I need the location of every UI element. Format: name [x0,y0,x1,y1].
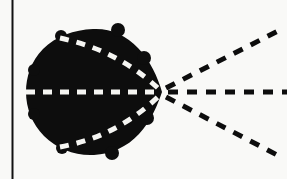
figure-canvas: Converging and diverging dashed rays thr… [0,0,287,179]
figure-illustration [0,0,287,179]
